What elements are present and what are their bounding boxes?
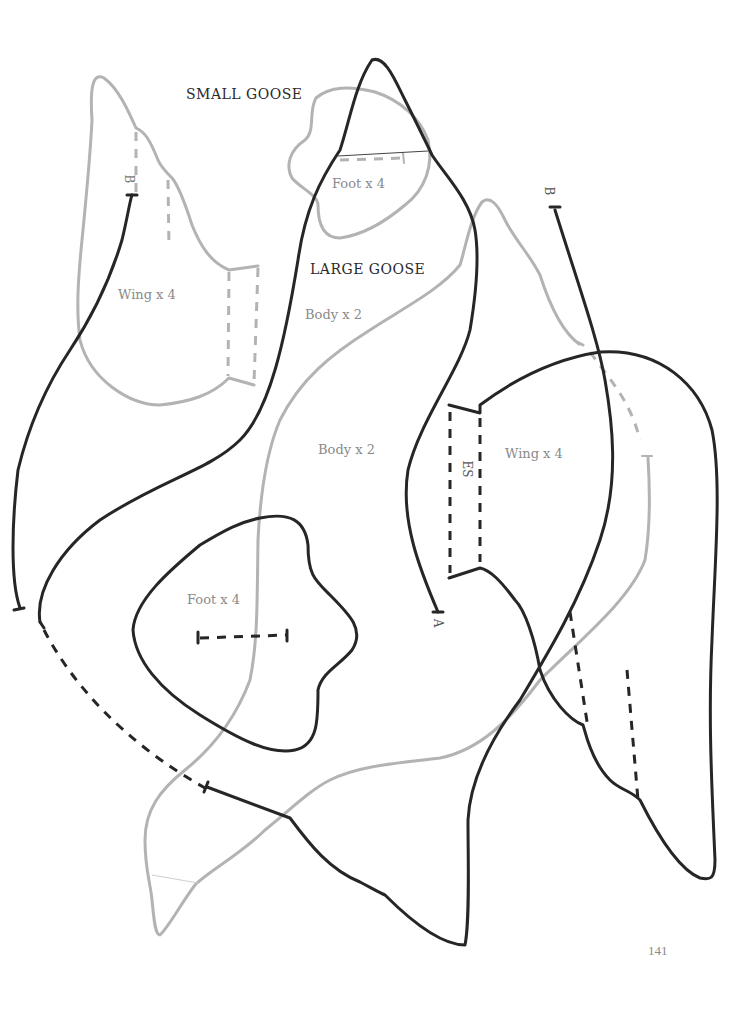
small-goose-wing-piece (78, 77, 258, 405)
pattern-sheet (0, 0, 729, 1017)
large-goose-foot-label: Foot x 4 (187, 593, 240, 606)
large-goose-mark-b: B (543, 187, 555, 196)
large-goose-wing-label: Wing x 4 (505, 447, 563, 460)
small-goose-body-piece (145, 200, 652, 935)
small-goose-foot-label: Foot x 4 (332, 177, 385, 190)
large-goose-heading: LARGE GOOSE (310, 262, 425, 276)
large-goose-body-label: Body x 2 (318, 443, 375, 456)
large-goose-body-piece (13, 59, 613, 945)
large-goose-foot-piece (133, 516, 357, 751)
page-number: 141 (648, 944, 668, 957)
large-goose-mark-a: A (432, 619, 444, 628)
small-goose-body-label: Body x 2 (305, 308, 362, 321)
large-goose-mark-es: ES (461, 461, 473, 478)
large-goose-wing-piece (449, 352, 717, 879)
small-goose-heading: SMALL GOOSE (186, 87, 303, 101)
small-goose-mark-b: B (123, 175, 135, 184)
small-goose-wing-label: Wing x 4 (118, 288, 176, 301)
